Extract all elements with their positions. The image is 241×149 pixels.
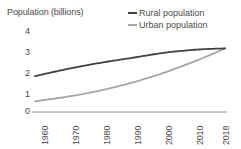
series-line-rural [35,48,225,76]
series-line-urban [35,48,225,101]
population-line-chart: Population (billions) Rural population U… [0,0,241,149]
chart-plot-area [0,0,241,149]
